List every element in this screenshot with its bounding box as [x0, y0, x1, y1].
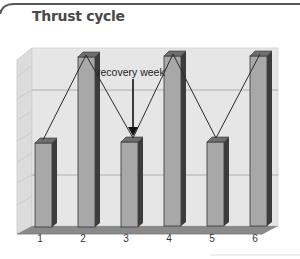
annotation-label: recovery week [97, 66, 165, 78]
floor [17, 226, 278, 234]
x-tick-label: 1 [30, 233, 50, 244]
bar-1 [35, 138, 57, 227]
x-tick-label: 4 [159, 233, 179, 244]
bar-5 [207, 137, 229, 226]
x-tick-label: 3 [116, 233, 136, 244]
chart-frame [0, 0, 300, 259]
bar-6 [250, 51, 272, 226]
x-tick-label: 2 [73, 233, 93, 244]
side-wall [17, 48, 32, 234]
bar-3 [121, 137, 143, 227]
chart-svg [0, 0, 300, 259]
x-tick-label: 5 [202, 233, 222, 244]
chart-title: Thrust cycle [32, 8, 125, 24]
bar-2 [78, 52, 100, 227]
bar-4 [164, 51, 186, 226]
x-tick-label: 6 [245, 233, 265, 244]
